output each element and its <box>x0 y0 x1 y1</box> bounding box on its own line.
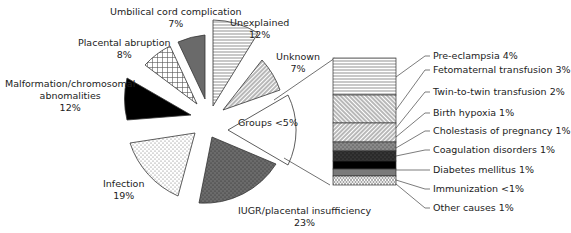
label-infection: Infection 19% <box>103 178 144 202</box>
bar-label-birth-hypoxia: Birth hypoxia 1% <box>433 107 514 119</box>
bar-label-coagulation: Coagulation disorders 1% <box>433 144 555 156</box>
label-malformation-pct: 12% <box>5 102 135 114</box>
bar-label-other: Other causes 1% <box>433 202 514 214</box>
bar-label-cholestasis: Cholestasis of pregnancy 1% <box>433 125 571 137</box>
bar-label-pre-eclampsia: Pre-eclampsia 4% <box>433 50 518 62</box>
label-malformation: Malformation/chromosomal abnomalities 12… <box>5 78 135 114</box>
label-malformation-name2: abnomalities <box>5 90 135 102</box>
label-unknown: Unknown 7% <box>276 51 320 75</box>
bar-label-fetomaternal: Fetomaternal transfusion 3% <box>433 64 571 76</box>
label-unexplained-name: Unexplained <box>230 17 289 29</box>
label-unknown-name: Unknown <box>276 51 320 63</box>
label-umbilical: Umbilical cord complication 7% <box>110 6 242 30</box>
label-unknown-pct: 7% <box>276 63 320 75</box>
label-unexplained: Unexplained 12% <box>230 17 289 41</box>
label-iugr-pct: 23% <box>238 217 371 229</box>
label-groups: Groups <5% <box>238 117 298 129</box>
label-placental: Placental abruption 8% <box>78 37 171 61</box>
bar-label-diabetes: Diabetes mellitus 1% <box>433 164 534 176</box>
label-infection-pct: 19% <box>103 190 144 202</box>
label-iugr: IUGR/placental insufficiency 23% <box>238 205 371 229</box>
label-placental-name: Placental abruption <box>78 37 171 49</box>
label-unexplained-pct: 12% <box>230 29 289 41</box>
label-malformation-name1: Malformation/chromosomal <box>5 78 135 90</box>
label-placental-pct: 8% <box>78 49 171 61</box>
label-infection-name: Infection <box>103 178 144 190</box>
label-umbilical-name: Umbilical cord complication <box>110 6 242 18</box>
label-iugr-name: IUGR/placental insufficiency <box>238 205 371 217</box>
breakdown-bar <box>333 58 396 185</box>
bar-label-twin: Twin-to-twin transfusion 2% <box>433 86 565 98</box>
bar-label-immunization: Immunization <1% <box>433 183 524 195</box>
label-groups-name: Groups <5% <box>238 117 298 129</box>
label-umbilical-pct: 7% <box>110 18 242 30</box>
